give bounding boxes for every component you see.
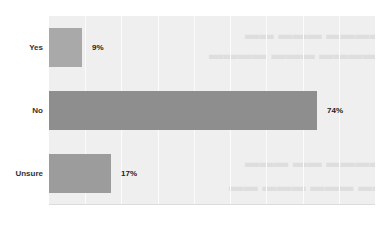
bleed-through-text: ▬▬ ▬▬▬ ▬▬▬ ▬▬ <box>229 178 375 194</box>
bar-unsure <box>49 154 111 193</box>
category-label-unsure: Unsure <box>15 169 43 179</box>
value-label-yes: 9% <box>92 43 104 53</box>
bar-yes <box>49 28 82 67</box>
value-label-no: 74% <box>327 106 343 116</box>
bar-no <box>49 91 317 130</box>
bleed-through-text: ▬▬▬ ▬▬ ▬▬▬▬▬ <box>245 154 375 170</box>
category-label-yes: Yes <box>29 43 43 53</box>
bleed-through-text: ▬▬▬▬ ▬▬▬ ▬▬▬▬▬ <box>209 46 375 62</box>
bleed-through-text: ▬▬ ▬▬▬ ▬▬▬▬ <box>245 26 375 42</box>
value-label-unsure: 17% <box>121 169 137 179</box>
category-label-no: No <box>32 106 43 116</box>
